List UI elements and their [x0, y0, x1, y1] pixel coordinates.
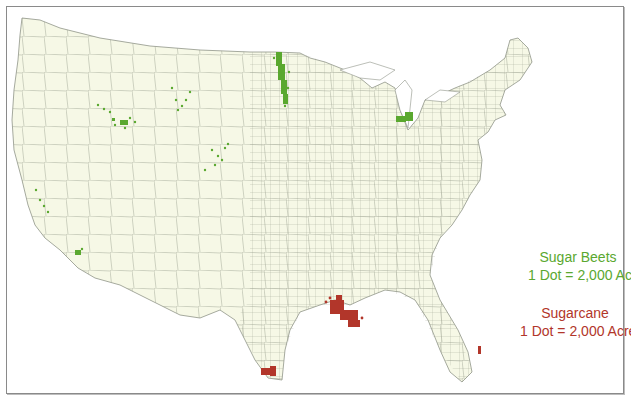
legend-beets-label: Sugar Beets — [528, 248, 628, 266]
legend-sugarcane: Sugarcane 1 Dot = 2,000 Acres — [520, 304, 630, 340]
legend-cane-label: Sugarcane — [520, 304, 630, 322]
legend-cane-scale: 1 Dot = 2,000 Acres — [520, 322, 630, 340]
legend-sugar-beets: Sugar Beets 1 Dot = 2,000 Acres — [528, 248, 628, 284]
legend-beets-scale: 1 Dot = 2,000 Acres — [528, 266, 628, 284]
